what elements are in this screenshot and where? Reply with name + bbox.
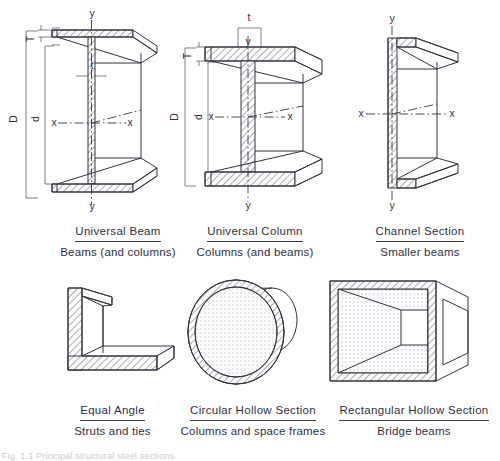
caption-subtitle: Bridge beams [330, 424, 498, 440]
bottom-flange-end [416, 164, 458, 188]
label-x-right: x [449, 107, 455, 119]
label-t: t [91, 59, 94, 71]
axis-x-depth [92, 110, 142, 123]
axis-x-depth [248, 106, 303, 117]
caption-title: Circular Hollow Section [190, 403, 316, 421]
top-flange-end [416, 38, 458, 62]
caption-universal-column: Universal Column Columns (and beams) [175, 219, 335, 260]
label-x-right: x [287, 110, 293, 122]
caption-subtitle: Columns and space frames [173, 424, 333, 440]
top-flange-section [397, 38, 416, 47]
label-x-left: x [208, 110, 214, 122]
caption-channel-section: Channel Section Smaller beams [345, 219, 495, 260]
diagram-equal-angle [45, 278, 180, 388]
dimension-d [45, 46, 54, 184]
dimension-D [26, 31, 38, 198]
top-flange-end [295, 47, 322, 74]
diagram-universal-beam: D d T t x x y y [8, 6, 173, 211]
dimension-T [196, 42, 205, 66]
label-y-bottom: y [389, 199, 395, 211]
caption-equal-angle: Equal Angle Struts and ties [35, 398, 190, 439]
bottom-flange-end [295, 159, 322, 186]
caption-rectangular-hollow-section: Rectangular Hollow Section Bridge beams [330, 398, 498, 439]
label-t: t [248, 11, 251, 23]
bottom-flange-section [205, 172, 295, 186]
label-y-bottom: y [245, 199, 251, 211]
bottom-flange-section [52, 184, 133, 192]
tube-inner-back [401, 310, 428, 345]
label-x-right: x [127, 116, 133, 128]
label-y-top: y [245, 35, 251, 47]
tube-far-end [443, 299, 468, 365]
label-y-bottom: y [89, 200, 95, 212]
diagram-universal-column: D d T t x x y y [175, 6, 335, 211]
label-D: D [7, 115, 19, 123]
top-flange-section [52, 30, 133, 37]
caption-title: Universal Beam [75, 224, 160, 242]
horizontal-leg-end [157, 346, 174, 370]
label-D: D [168, 113, 180, 121]
bottom-flange-end [133, 168, 157, 192]
label-T: T [181, 52, 193, 59]
label-d: d [29, 116, 41, 122]
label-y-top: y [389, 12, 395, 24]
caption-subtitle: Smaller beams [345, 245, 495, 261]
vertical-leg-top [82, 288, 112, 305]
figure-footnote: Fig. 1.1 Principal structural steel sect… [2, 451, 174, 461]
top-flange-end [133, 30, 157, 53]
label-T: T [24, 35, 36, 42]
caption-subtitle: Columns (and beams) [175, 245, 335, 261]
bottom-flange-section [397, 179, 416, 188]
diagram-channel-section: x x y y [340, 6, 495, 211]
label-x-left: x [51, 116, 57, 128]
caption-title: Universal Column [207, 224, 303, 242]
caption-subtitle: Struts and ties [35, 424, 190, 440]
caption-circular-hollow-section: Circular Hollow Section Columns and spac… [173, 398, 333, 439]
label-x-left: x [358, 107, 364, 119]
top-flange-section [205, 47, 295, 61]
diagram-circular-hollow-section [180, 276, 320, 388]
horizontal-leg-section [68, 356, 157, 370]
axis-x-depth [392, 104, 437, 114]
caption-title: Rectangular Hollow Section [339, 403, 488, 421]
caption-title: Channel Section [376, 224, 465, 242]
label-d: d [192, 114, 204, 120]
diagram-rectangular-hollow-section [325, 277, 475, 387]
caption-title: Equal Angle [80, 403, 145, 421]
label-y-top: y [89, 7, 95, 19]
